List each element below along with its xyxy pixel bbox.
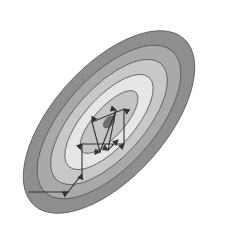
contour-diagram <box>0 0 231 237</box>
